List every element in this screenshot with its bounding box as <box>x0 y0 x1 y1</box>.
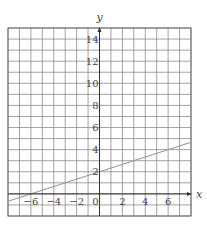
y-tick-label: 6 <box>92 122 98 133</box>
y-tick-label: 8 <box>92 100 98 111</box>
x-tick-label: 4 <box>142 196 148 207</box>
x-tick-label: 0 <box>92 196 98 207</box>
y-tick-label: 12 <box>86 56 99 67</box>
y-tick-label: 10 <box>86 78 99 89</box>
x-tick-label: −2 <box>69 196 84 207</box>
axes <box>8 27 192 216</box>
chart: −6−4−202462468101214 x y <box>0 0 207 225</box>
x-tick-label: −6 <box>24 196 39 207</box>
y-tick-label: 14 <box>86 34 99 45</box>
y-axis-label: y <box>96 11 104 24</box>
x-axis-label: x <box>196 188 203 201</box>
x-tick-label: 2 <box>119 196 125 207</box>
tick-labels: −6−4−202462468101214 <box>24 34 172 207</box>
y-tick-label: 4 <box>92 144 98 155</box>
y-tick-label: 2 <box>92 166 98 177</box>
x-tick-label: −4 <box>46 196 61 207</box>
x-tick-label: 6 <box>165 196 171 207</box>
